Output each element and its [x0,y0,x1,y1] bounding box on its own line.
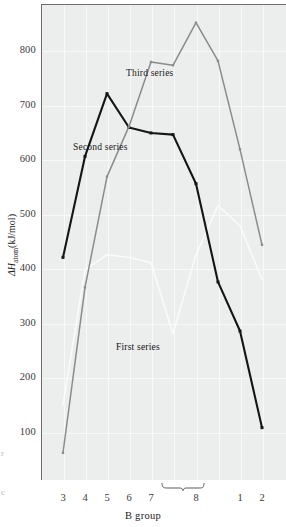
chart-figure: 800700600500400300200100 ΔHatom(kJ/mol) … [0,0,286,527]
x-axis-label: B group [0,510,286,521]
data-point-marker [195,182,198,185]
annotation-second-series: Second series [73,142,128,152]
y-axis-label-units: (kJ/mol) [6,214,17,248]
data-point-marker [239,330,242,333]
data-point-marker [62,256,65,259]
data-point-marker [172,64,174,66]
annotation-third-series: Third series [126,68,174,78]
x-axis-tick-label: 6 [118,492,140,503]
x-axis-tick-label: 1 [229,492,251,503]
y-axis-tick-label: 800 [0,44,36,55]
group-8-brace [161,482,205,491]
x-axis-tick-label: 4 [74,492,96,503]
data-point-marker [172,133,175,136]
data-point-marker [62,452,64,454]
y-axis-tick-label: 100 [0,426,36,437]
data-point-marker [150,61,152,63]
annotation-first-series: First series [116,342,160,352]
data-point-marker [261,244,263,246]
data-point-marker [261,426,264,429]
data-point-marker [195,22,197,24]
data-point-marker [84,286,86,288]
data-point-marker [150,131,153,134]
y-axis-tick-label: 300 [0,317,36,328]
series-line [63,23,262,453]
x-axis-tick-label: 7 [140,492,162,503]
edge-text-fragment-1: r [1,448,8,458]
data-point-marker [84,155,87,158]
data-point-marker [217,60,219,62]
x-axis-tick-label: 3 [52,492,74,503]
series-third-series [62,22,263,454]
data-point-marker [106,92,109,95]
data-point-marker [217,280,220,283]
data-point-marker [128,125,130,127]
y-axis-label-symbol: ΔH [6,263,17,276]
edge-text-fragment-2: c [1,487,8,497]
data-point-marker [106,175,108,177]
x-axis-tick-label: 8 [185,492,207,503]
y-axis-label-subscript: atom [11,248,20,263]
y-axis-tick-label: 200 [0,371,36,382]
x-axis-tick-label: 2 [251,492,273,503]
series-line [63,206,262,405]
y-axis-label: ΔHatom(kJ/mol) [6,185,20,305]
y-axis-tick-label: 600 [0,153,36,164]
y-axis-tick-label: 700 [0,99,36,110]
x-axis-tick-label: 5 [96,492,118,503]
data-point-marker [239,148,241,150]
series-first-series [63,206,262,405]
